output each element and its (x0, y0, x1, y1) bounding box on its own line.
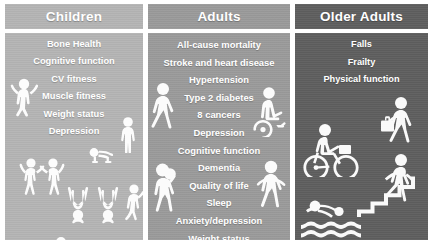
list-item: Quality of life (189, 181, 248, 190)
column-header-children: Children (5, 4, 143, 29)
list-item: Falls (351, 40, 372, 49)
column-panel-older-adults: Falls Frailty Physical function (295, 33, 428, 240)
list-item: Bone Health (47, 40, 101, 49)
column-panel-adults: All-cause mortality Stroke and heart dis… (148, 33, 290, 240)
list-item: Muscle fitness (42, 92, 106, 101)
list-item: Stroke and heart disease (164, 58, 275, 67)
list-item: All-cause mortality (177, 40, 261, 49)
list-item: Frailty (348, 58, 376, 67)
list-item: Weight status (188, 234, 249, 240)
column-title-children: Children (46, 9, 102, 24)
column-children: Children Bone Health Cognitive function … (5, 0, 143, 246)
column-adults: Adults All-cause mortality Stroke and he… (148, 0, 290, 246)
column-older-adults: Older Adults Falls Frailty Physical func… (295, 0, 428, 246)
child-lying-reading-icon (47, 231, 109, 240)
crawling-baby-icon (87, 145, 117, 165)
child-handstand-left-icon (64, 185, 92, 225)
child-climbing-icon (121, 181, 143, 223)
list-item: 8 cancers (197, 110, 240, 119)
list-item: Weight status (44, 110, 105, 119)
infographic-board: Children Bone Health Cognitive function … (0, 0, 437, 246)
list-item: Hypertension (189, 75, 249, 84)
column-header-adults: Adults (148, 4, 290, 29)
two-children-highfive-icon (19, 153, 67, 201)
list-item: CV fitness (51, 75, 96, 84)
benefit-list-older-adults: Falls Frailty Physical function (295, 33, 428, 93)
list-item: Physical function (323, 75, 399, 84)
child-handstand-right-icon (94, 185, 122, 225)
swimmer-icon (301, 197, 371, 240)
list-item: Anxiety/depression (176, 216, 263, 225)
list-item: Sleep (206, 198, 231, 207)
benefit-list-adults: All-cause mortality Stroke and heart dis… (148, 33, 290, 240)
list-item: Dementia (198, 163, 240, 172)
list-item: Depression (49, 127, 100, 136)
list-item: Cognitive function (178, 146, 260, 155)
column-title-adults: Adults (197, 9, 240, 24)
list-item: Type 2 diabetes (184, 93, 254, 102)
walking-with-bag-icon (375, 95, 419, 153)
benefit-list-children: Bone Health Cognitive function CV fitnes… (5, 33, 143, 144)
column-title-older-adults: Older Adults (320, 9, 403, 24)
column-panel-children: Bone Health Cognitive function CV fitnes… (5, 33, 143, 240)
list-item: Depression (193, 128, 244, 137)
list-item: Cognitive function (33, 57, 115, 66)
column-header-older-adults: Older Adults (295, 4, 428, 29)
